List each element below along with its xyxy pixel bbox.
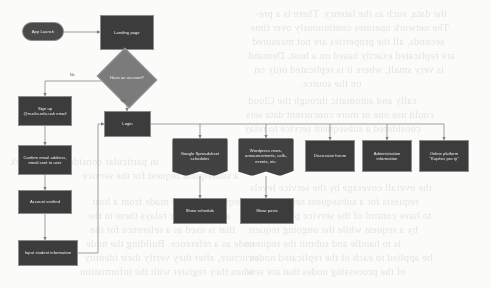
node-label: Discussion forum — [314, 153, 346, 158]
edge-label-no: No — [70, 73, 75, 77]
node-label: Administration information — [366, 151, 408, 162]
node-label: Show schedule — [186, 208, 214, 213]
flowchart-page: the data, such as the latency. There is … — [0, 0, 491, 288]
node-wordpress-news[interactable]: Wordpress news, announcements, calls, ev… — [238, 138, 294, 176]
node-google-spreadsheet-schedules[interactable]: Google Spreadsheet schedules — [172, 138, 228, 176]
node-label: Sign up @nuclio.edu.uah email — [22, 106, 68, 117]
node-confirm-email[interactable]: Confirm email address, email sent to use… — [18, 145, 72, 175]
node-label: Online platform "Kupérci pro ty" — [423, 151, 465, 162]
node-administration-information[interactable]: Administration information — [362, 140, 412, 172]
node-label: Account verified — [30, 199, 60, 204]
node-label: Landing page — [114, 30, 139, 35]
node-input-student-information[interactable]: Input student information — [18, 240, 78, 266]
node-landing-page[interactable]: Landing page — [100, 15, 154, 50]
node-account-verified[interactable]: Account verified — [18, 190, 72, 214]
edge-label-yes: Yes — [120, 99, 126, 103]
node-label: Show posts — [256, 208, 278, 213]
flowchart-canvas: App Launch Landing page Have an account?… — [0, 0, 491, 288]
node-app-launch[interactable]: App Launch — [22, 22, 64, 41]
node-sign-up[interactable]: Sign up @nuclio.edu.uah email — [18, 96, 72, 126]
node-show-schedule[interactable]: Show schedule — [173, 198, 227, 224]
node-show-posts[interactable]: Show posts — [240, 198, 294, 224]
node-label: App Launch — [32, 29, 54, 34]
node-label: Wordpress news, announcements, calls, ev… — [241, 148, 291, 164]
edge-decision-no-to-signup — [45, 81, 104, 96]
node-label: Confirm email address, email sent to use… — [22, 155, 68, 166]
node-label: Input student information — [25, 250, 71, 255]
node-label: Have an account? — [110, 75, 144, 80]
node-have-account-decision[interactable]: Have an account? — [104, 58, 150, 98]
node-login[interactable]: Login — [104, 111, 151, 137]
node-discussion-forum[interactable]: Discussion forum — [305, 140, 355, 172]
node-label: Login — [122, 121, 132, 126]
edge-input-to-login — [78, 124, 104, 253]
node-label: Google Spreadsheet schedules — [175, 151, 225, 162]
node-online-platform[interactable]: Online platform "Kupérci pro ty" — [419, 140, 469, 172]
